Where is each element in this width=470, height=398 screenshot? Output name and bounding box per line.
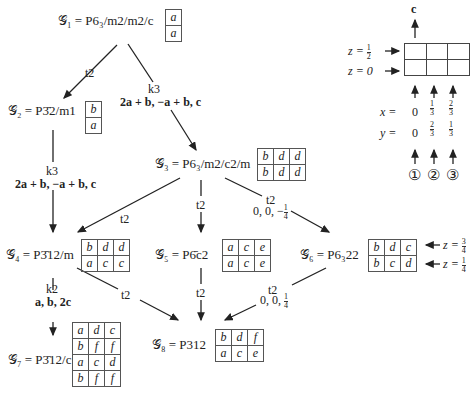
edge-transform-shift: 0, 0, −14 — [253, 204, 288, 221]
edge-g6-g8-a — [292, 268, 326, 285]
wyckoff-cell: d — [89, 323, 105, 339]
wyckoff-cell: b — [73, 339, 89, 355]
node-g7-label: 𝒢₇ = P3̄12/c — [8, 352, 71, 368]
wyckoff-cell: b — [73, 371, 89, 387]
wyckoff-cell: f — [89, 371, 105, 387]
node-g6-label: 𝒢₆ = P6₃22 — [300, 247, 359, 263]
wyckoff-cell: f — [105, 371, 121, 387]
wyckoff-cell: a — [166, 10, 182, 26]
wyckoff-cell: d — [290, 165, 306, 181]
edge-transform-shift: 0, 0, 14 — [260, 293, 288, 310]
node-g5-wyckoff: ace ace — [222, 239, 271, 272]
z-level-upper: z = 34 — [443, 238, 466, 255]
edge-g6-g8-b — [225, 305, 256, 320]
edge-g3-g6-b — [291, 211, 329, 232]
wyckoff-cell: a — [86, 118, 102, 134]
node-g4-wyckoff: bdd acc — [81, 239, 130, 272]
grid-cell — [405, 44, 427, 60]
y-label: y = — [380, 126, 396, 141]
node-g3-wyckoff: bdd bdd — [257, 148, 306, 181]
grid-cell — [405, 60, 427, 76]
shift-text: 0, 0, − — [253, 204, 284, 218]
edge-g4-g8-b — [140, 300, 178, 320]
wyckoff-cell: d — [98, 240, 114, 256]
x-label: x = — [380, 105, 396, 120]
wyckoff-cell: e — [248, 346, 264, 362]
node-g5-label: 𝒢₅ = P6̄c2 — [155, 247, 208, 263]
edge-label-t2: t2 — [121, 288, 130, 303]
y-col1: 0 — [412, 126, 418, 141]
z-level-lower: z = 14 — [443, 257, 466, 274]
node-g1-wyckoff: a a — [165, 9, 182, 42]
node-g2-label: 𝒢₂ = P3̄2/m1 — [8, 103, 76, 119]
wyckoff-cell: a — [73, 355, 89, 371]
wyckoff-cell: a — [82, 256, 98, 272]
wyckoff-cell: d — [401, 256, 417, 272]
wyckoff-cell: c — [105, 323, 121, 339]
legend-grid — [404, 43, 470, 76]
node-g7-wyckoff: adc bff acd bff — [72, 322, 121, 387]
grid-cell — [448, 44, 470, 60]
wyckoff-cell: b — [258, 149, 274, 165]
node-g8-wyckoff: bdf ace — [215, 329, 264, 362]
wyckoff-cell: c — [239, 256, 255, 272]
node-g1-label: 𝒢₁ = P6₃/m2/m2/c — [58, 13, 153, 29]
x-col1: 0 — [412, 105, 418, 120]
marker-2: ② — [427, 166, 440, 184]
grid-cell — [448, 60, 470, 76]
marker-1: ① — [408, 166, 421, 184]
edge-label-t2: t2 — [120, 212, 129, 227]
wyckoff-cell: d — [290, 149, 306, 165]
wyckoff-cell: d — [274, 165, 290, 181]
wyckoff-cell: a — [223, 240, 239, 256]
node-g2-wyckoff: b a — [85, 101, 102, 134]
wyckoff-cell: a — [73, 323, 89, 339]
edge-transform: 2a + b, −a + b, c — [120, 95, 201, 110]
wyckoff-cell: c — [114, 256, 130, 272]
edge-g1-g3-b — [171, 110, 196, 150]
wyckoff-cell: b — [258, 165, 274, 181]
wyckoff-cell: d — [114, 240, 130, 256]
wyckoff-cell: f — [248, 330, 264, 346]
y-col3: 13 — [449, 121, 453, 138]
grid-cell — [426, 44, 448, 60]
wyckoff-cell: a — [223, 256, 239, 272]
marker-3: ③ — [446, 166, 459, 184]
wyckoff-cell: d — [232, 330, 248, 346]
wyckoff-cell: f — [105, 339, 121, 355]
wyckoff-cell: c — [239, 240, 255, 256]
wyckoff-cell: b — [86, 102, 102, 118]
wyckoff-cell: b — [369, 256, 385, 272]
edge-g1-g3-a — [128, 44, 153, 82]
wyckoff-cell: a — [166, 26, 182, 42]
wyckoff-cell: d — [105, 355, 121, 371]
wyckoff-cell: b — [82, 240, 98, 256]
x-col2: 13 — [430, 100, 434, 117]
node-g6-wyckoff: bdc bcd — [368, 239, 417, 272]
wyckoff-cell: c — [385, 256, 401, 272]
x-col3: 23 — [449, 100, 453, 117]
edge-label-t2: t2 — [85, 66, 94, 81]
wyckoff-cell: c — [98, 256, 114, 272]
wyckoff-cell: e — [255, 256, 271, 272]
z-zero-label: z = 0 — [348, 64, 373, 79]
grid-cell — [426, 60, 448, 76]
wyckoff-cell: f — [89, 339, 105, 355]
edge-transform: 2a + b, −a + b, c — [15, 177, 96, 192]
z-half-label: z = 12 — [348, 44, 371, 61]
wyckoff-cell: e — [255, 240, 271, 256]
wyckoff-cell: c — [401, 240, 417, 256]
edge-label-t2: t2 — [196, 286, 205, 301]
wyckoff-cell: c — [232, 346, 248, 362]
wyckoff-cell: a — [216, 346, 232, 362]
node-g4-label: 𝒢₄ = P3̄12/m — [6, 247, 74, 263]
node-g3-label: 𝒢₃ = P6₃/m2/c2/m — [155, 156, 250, 172]
edge-transform: a, b, 2c — [35, 295, 71, 310]
wyckoff-cell: d — [385, 240, 401, 256]
node-g8-label: 𝒢₈ = P312 — [152, 337, 206, 353]
wyckoff-cell: c — [89, 355, 105, 371]
wyckoff-cell: b — [369, 240, 385, 256]
c-axis-label: c — [411, 2, 416, 17]
fraction: 14 — [284, 204, 288, 221]
edge-label-t2: t2 — [196, 198, 205, 213]
